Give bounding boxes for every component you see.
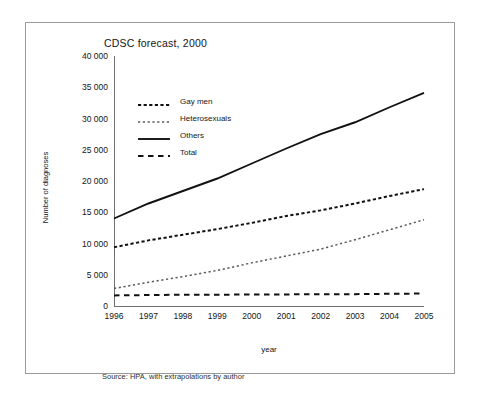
legend-line-swatch-icon (138, 137, 170, 140)
x-axis-label: year (114, 345, 424, 354)
legend-item[interactable]: Others (138, 129, 288, 146)
x-axis-tick-labels: 1996199719981999200020012002200320042005 (114, 311, 424, 327)
y-axis-tick-label: 30 000 (82, 114, 108, 124)
plot-area (114, 56, 424, 306)
y-axis-label: Number of diagnoses (41, 128, 50, 248)
chart-title: CDSC forecast, 2000 (104, 37, 207, 49)
y-axis-tick-label: 25 000 (82, 145, 108, 155)
series-line-gay-men (114, 189, 424, 247)
legend-item[interactable]: Heterosexuals (138, 112, 288, 129)
series-line-heterosexuals (114, 220, 424, 289)
legend-item-label: Heterosexuals (180, 114, 231, 123)
y-axis-tick-label: 40 000 (82, 51, 108, 61)
x-axis-tick-label: 1998 (173, 311, 192, 321)
legend-line-swatch-icon (138, 120, 170, 123)
y-axis-tick-label: 10 000 (82, 239, 108, 249)
series-line-total (114, 294, 424, 296)
y-axis-tick-labels: 05 00010 00015 00020 00025 00030 00035 0… (54, 56, 108, 306)
x-axis-tick-label: 1996 (105, 311, 124, 321)
series-lines (114, 56, 424, 306)
source-note: Source: HPA, with extrapolations by auth… (102, 372, 244, 381)
y-axis-tick-label: 5 000 (87, 270, 108, 280)
x-axis-line (114, 306, 424, 307)
x-axis-tick-label: 2001 (277, 311, 296, 321)
legend-item[interactable]: Total (138, 146, 288, 163)
legend-item-label: Others (180, 131, 204, 140)
y-axis-tick-label: 35 000 (82, 82, 108, 92)
figure-frame: CDSC forecast, 2000 Number of diagnoses … (25, 22, 455, 374)
y-axis-tick-label: 0 (103, 301, 108, 311)
x-axis-tick-label: 1997 (139, 311, 158, 321)
legend-item[interactable]: Gay men (138, 95, 288, 112)
legend-line-swatch-icon (138, 103, 170, 106)
x-axis-tick-label: 2004 (380, 311, 399, 321)
x-axis-tick-label: 2002 (311, 311, 330, 321)
legend-item-label: Total (180, 148, 197, 157)
x-axis-tick-label: 2003 (346, 311, 365, 321)
y-axis-tick-label: 15 000 (82, 207, 108, 217)
y-axis-tick-label: 20 000 (82, 176, 108, 186)
x-axis-tick-label: 1999 (208, 311, 227, 321)
x-axis-tick-label: 2000 (242, 311, 261, 321)
legend-item-label: Gay men (180, 97, 212, 106)
chart-legend: Gay menHeterosexualsOthersTotal (138, 95, 288, 163)
legend-line-swatch-icon (138, 154, 170, 157)
x-axis-tick-label: 2005 (415, 311, 434, 321)
